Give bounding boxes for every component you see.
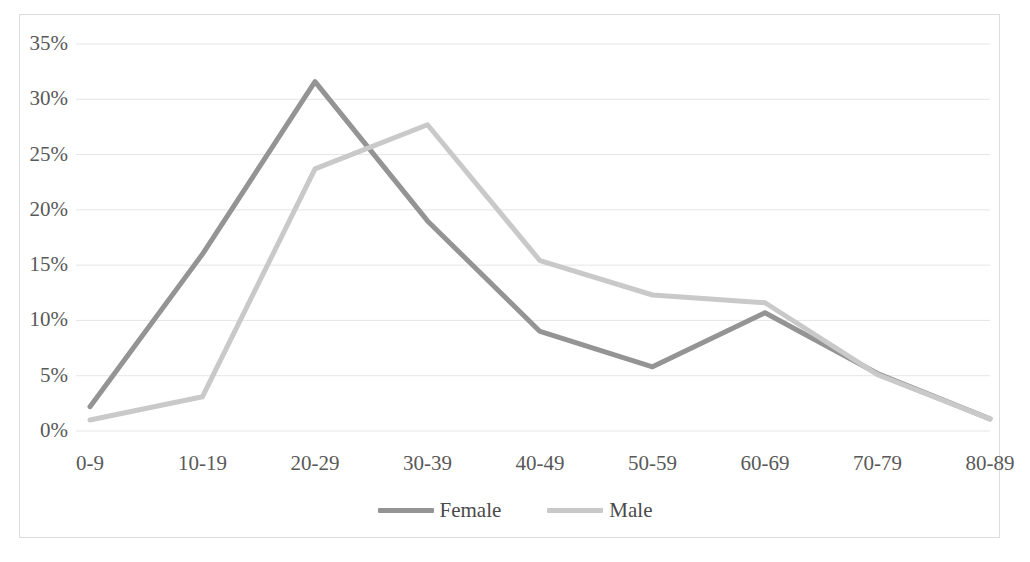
- legend-swatch-male: [547, 508, 603, 513]
- figure-caption: [0, 549, 1030, 562]
- x-tick-label-0-9: 0-9: [30, 453, 150, 474]
- y-tick-label: 10%: [6, 309, 68, 330]
- y-tick-label: 15%: [6, 254, 68, 275]
- x-tick-label-50-59: 50-59: [593, 453, 713, 474]
- chart-legend: FemaleMale: [0, 498, 1030, 523]
- y-tick-label: 0%: [6, 420, 68, 441]
- x-tick-label-20-29: 20-29: [255, 453, 375, 474]
- x-tick-label-60-69: 60-69: [705, 453, 825, 474]
- x-tick-label-40-49: 40-49: [480, 453, 600, 474]
- y-tick-label: 30%: [6, 88, 68, 109]
- y-tick-label: 35%: [6, 33, 68, 54]
- x-tick-label-80-89: 80-89: [930, 453, 1030, 474]
- x-tick-label-70-79: 70-79: [818, 453, 938, 474]
- y-tick-label: 20%: [6, 199, 68, 220]
- x-tick-label-30-39: 30-39: [368, 453, 488, 474]
- series-lines-group: [90, 82, 990, 420]
- x-tick-label-10-19: 10-19: [143, 453, 263, 474]
- series-line-female: [90, 82, 990, 419]
- y-tick-label: 5%: [6, 365, 68, 386]
- legend-label: Female: [440, 498, 502, 523]
- figure-container: 0%5%10%15%20%25%30%35% 0-910-1920-2930-3…: [0, 0, 1030, 562]
- line-chart-canvas: [0, 0, 1030, 562]
- legend-item-male[interactable]: Male: [547, 498, 652, 523]
- legend-label: Male: [609, 498, 652, 523]
- legend-swatch-female: [378, 508, 434, 513]
- y-tick-label: 25%: [6, 144, 68, 165]
- legend-item-female[interactable]: Female: [378, 498, 502, 523]
